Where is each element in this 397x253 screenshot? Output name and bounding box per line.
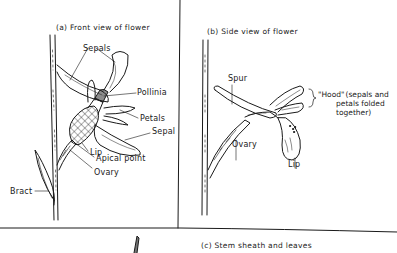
label-ovary: Ovary [94,168,119,177]
leader-pollinia [104,93,136,96]
label-lip-b: Lip [288,160,300,169]
label-petals: Petals [140,114,165,123]
panel-c-drawing [134,236,139,253]
leader-sepal [125,133,150,140]
label-bract: Bract [10,187,32,196]
label-apical-point: Apical point [96,154,146,163]
petals [104,106,135,114]
panel-a-drawing [35,35,150,220]
leader-ovary [70,150,92,168]
label-hood: "Hood"(sepals and petals folded together… [318,90,389,117]
spur [214,86,276,118]
leader-lip [82,143,88,151]
caption-panel-b: (b) Side view of flower [207,27,298,36]
lip [69,106,98,145]
hood-note-1: (sepals and [345,90,388,99]
hood-note-3: together) [336,108,389,117]
lip-b [278,118,300,160]
caption-panel-a: (a) Front view of flower [56,23,150,32]
panel-divider-horizontal [0,228,397,232]
label-sepals: Sepals [83,44,111,53]
label-spur: Spur [228,74,247,83]
ovary-b [208,120,250,178]
panel-b-drawing [202,40,316,215]
label-sepal: Sepal [152,127,175,136]
orchid-diagram [0,0,397,253]
hood [270,86,304,112]
caption-panel-c: (c) Stem sheath and leaves [201,241,312,250]
hood-title: "Hood" [318,90,344,99]
label-pollinia: Pollinia [137,88,167,97]
label-ovary-b: Ovary [232,140,257,149]
panel-divider-vertical [178,0,180,228]
hood-brace [309,89,316,107]
hood-note-2: petals folded [336,99,389,108]
